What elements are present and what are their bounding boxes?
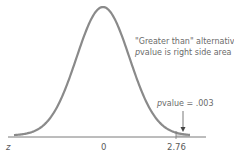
note-line-2: pvalue is right side area — [135, 47, 234, 58]
axis-label-z: z — [6, 143, 10, 152]
pvalue-annotation: pvalue = .003 — [157, 98, 214, 109]
normal-curve-chart — [0, 0, 234, 159]
note-line-1: "Greater than" alternative — [135, 36, 234, 47]
tick-label-2-76: 2.76 — [167, 143, 186, 152]
tick-label-zero: 0 — [101, 143, 106, 152]
arrow-head-icon — [181, 127, 186, 132]
alternative-note: "Greater than" alternative pvalue is rig… — [135, 36, 234, 58]
normal-curve — [14, 7, 190, 135]
